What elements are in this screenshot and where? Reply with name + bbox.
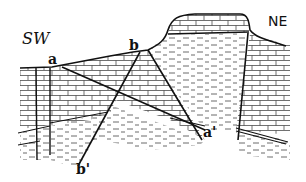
label-point-b: b (129, 38, 139, 52)
label-southwest: SW (22, 31, 49, 47)
label-point-a: a (48, 52, 57, 66)
cross-section-diagram: SW NE a b a' b' (0, 0, 306, 182)
label-northeast: NE (268, 14, 287, 28)
cross-section-drawing (0, 0, 306, 182)
shale-lower-right (236, 132, 290, 160)
label-point-b-prime: b' (76, 162, 90, 176)
label-point-a-prime: a' (203, 125, 216, 139)
